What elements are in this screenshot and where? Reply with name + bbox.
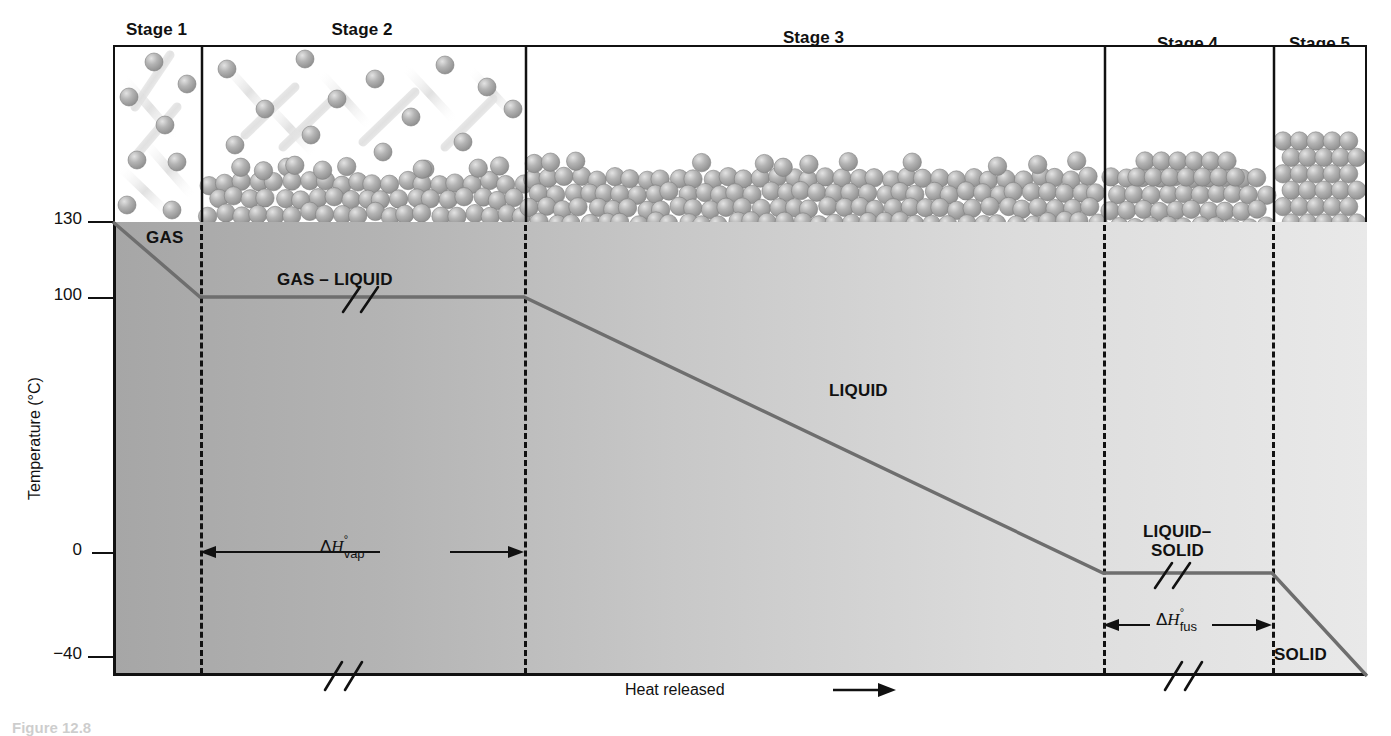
molecular-illustration-panels <box>113 45 1367 225</box>
y-tick-mark-0 <box>92 552 113 554</box>
phase-label-solid: SOLID <box>1274 645 1327 665</box>
dh-vap-delta: Δ <box>320 537 331 556</box>
stage-label-2: Stage 2 <box>200 20 524 40</box>
dh-vap-script: °vapvap <box>344 537 365 557</box>
y-tick-label-minus40: −40 <box>14 644 82 664</box>
dh-fus-h: H <box>1167 610 1179 629</box>
y-tick-label-0: 0 <box>20 540 82 560</box>
y-tick-mark-100 <box>88 297 113 299</box>
stage-divider-4-5 <box>1272 225 1275 674</box>
dh-fus-sub: fus <box>1180 619 1197 634</box>
dh-fus-label: ΔH°fusfus <box>1156 610 1197 630</box>
dh-vap-degree: ° <box>344 533 348 545</box>
dh-vap-label: ΔH°vapvap <box>320 537 365 557</box>
y-axis-label: Temperature (°C) <box>26 377 44 500</box>
figure-caption: Figure 12.8 <box>12 719 91 736</box>
stage-label-1: Stage 1 <box>113 20 200 40</box>
y-tick-mark-130 <box>88 221 113 223</box>
phase-label-liquid-solid-line1: LIQUID– <box>1143 522 1211 542</box>
stage-divider-2-3 <box>524 225 527 674</box>
y-tick-label-130: 130 <box>20 209 82 229</box>
stage-divider-3-4 <box>1103 225 1106 674</box>
y-tick-label-100: 100 <box>20 285 82 305</box>
phase-label-gas-liquid: GAS – LIQUID <box>277 270 393 290</box>
particle-illustration-svg <box>115 47 1365 223</box>
phase-label-gas: GAS <box>146 228 183 248</box>
dh-fus-degree: ° <box>1180 606 1184 618</box>
dh-fus-delta: Δ <box>1156 610 1167 629</box>
phase-label-liquid-solid-line2: SOLID <box>1151 541 1204 561</box>
dh-vap-h: H <box>331 537 343 556</box>
x-axis-label: Heat released <box>625 681 725 699</box>
dh-fus-script: °fusfus <box>1180 610 1197 630</box>
stage-divider-1-2 <box>200 225 203 674</box>
y-tick-mark-minus40 <box>88 656 113 658</box>
dh-vap-sub: vap <box>344 546 365 561</box>
heat-released-arrow <box>833 683 896 697</box>
phase-label-liquid: LIQUID <box>829 381 888 401</box>
stage5-solid-lattice <box>1274 132 1365 223</box>
